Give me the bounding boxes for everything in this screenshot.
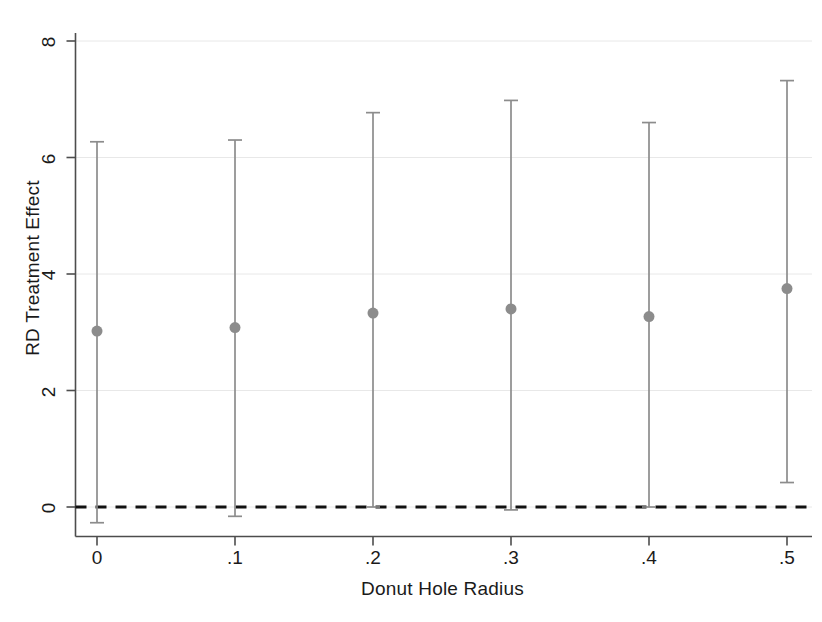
plot-canvas xyxy=(0,0,822,622)
data-point-group xyxy=(504,100,518,509)
data-point-group xyxy=(366,113,380,507)
data-point-group xyxy=(228,140,242,516)
data-point-marker xyxy=(92,326,103,337)
x-tick-label-.2: .2 xyxy=(343,547,403,569)
y-tick-label-4: 4 xyxy=(38,260,60,290)
y-tick-label-6: 6 xyxy=(38,144,60,174)
data-point-group xyxy=(780,81,794,483)
x-tick-label-.1: .1 xyxy=(205,547,265,569)
x-tick-label-.5: .5 xyxy=(757,547,817,569)
rd-donut-hole-chart: RD Treatment Effect Donut Hole Radius 02… xyxy=(0,0,822,622)
data-point-group xyxy=(642,123,656,507)
y-tick-label-0: 0 xyxy=(38,493,60,523)
data-point-group xyxy=(90,142,104,523)
y-tick-label-8: 8 xyxy=(38,27,60,57)
data-point-marker xyxy=(644,311,655,322)
gridlines xyxy=(76,41,813,507)
x-tick-label-0: 0 xyxy=(67,547,127,569)
x-tick-label-.4: .4 xyxy=(619,547,679,569)
axis-lines xyxy=(76,33,813,537)
data-point-marker xyxy=(368,308,379,319)
data-series xyxy=(90,81,794,523)
x-axis-title: Donut Hole Radius xyxy=(75,578,810,600)
axis-ticks xyxy=(67,41,788,546)
x-tick-label-.3: .3 xyxy=(481,547,541,569)
data-point-marker xyxy=(230,322,241,333)
data-point-marker xyxy=(506,303,517,314)
y-tick-label-2: 2 xyxy=(38,377,60,407)
data-point-marker xyxy=(782,283,793,294)
